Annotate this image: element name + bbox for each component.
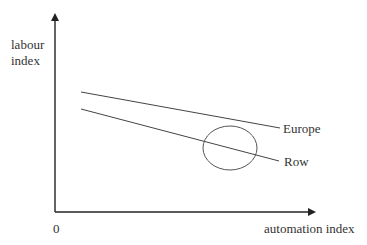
x-axis-label: automation index: [264, 221, 355, 236]
row-label: Row: [284, 154, 309, 169]
europe-line: [81, 92, 280, 128]
europe-label: Europe: [283, 121, 321, 136]
y-axis-label-line2: index: [11, 53, 40, 68]
row-line: [81, 109, 279, 161]
y-axis-label-line1: labour: [11, 37, 44, 52]
origin-label: 0: [53, 221, 60, 236]
